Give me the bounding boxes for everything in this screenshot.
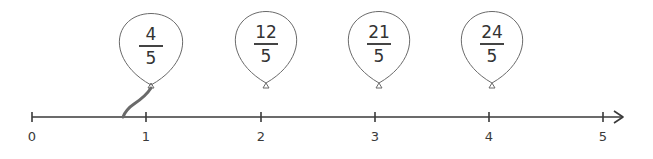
numerator: 24 — [472, 24, 512, 43]
tick-label-5: 5 — [593, 129, 613, 144]
denominator: 5 — [246, 45, 286, 65]
numerator: 4 — [131, 26, 171, 45]
tick-label-1: 1 — [136, 129, 156, 144]
tick-label-4: 4 — [479, 129, 499, 144]
fraction-label: 21 5 — [359, 24, 399, 65]
number-line-diagram: 0 1 2 3 4 5 4 5 12 5 21 5 24 5 — [0, 0, 653, 159]
balloon-knot — [489, 83, 495, 88]
tick-label-2: 2 — [251, 129, 271, 144]
tick-label-3: 3 — [365, 129, 385, 144]
numerator: 21 — [359, 24, 399, 43]
fraction-label: 12 5 — [246, 24, 286, 65]
balloon-knot — [376, 83, 382, 88]
balloon-knot — [263, 83, 269, 88]
fraction-label: 24 5 — [472, 24, 512, 65]
denominator: 5 — [359, 45, 399, 65]
numerator: 12 — [246, 24, 286, 43]
tick-label-0: 0 — [22, 129, 42, 144]
number-line-graphic — [0, 0, 653, 159]
fraction-label: 4 5 — [131, 26, 171, 67]
denominator: 5 — [472, 45, 512, 65]
denominator: 5 — [131, 47, 171, 67]
